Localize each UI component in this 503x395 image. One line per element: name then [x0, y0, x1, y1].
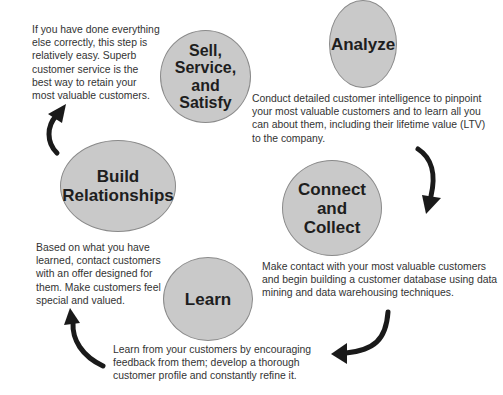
desc-learn: Learn from your customers by encouraging… [113, 343, 318, 383]
arrow-learn-to-build [64, 308, 103, 366]
node-sell-title: Sell, Service, and Satisfy [175, 42, 236, 112]
desc-sell-service-satisfy: If you have done everything else correct… [32, 23, 160, 102]
node-analyze: Analyze [329, 0, 397, 88]
node-build-title: Build Relationships [62, 167, 173, 205]
arrow-analyze-to-connect [418, 149, 441, 214]
desc-build-relationships: Based on what you have learned, contact … [36, 241, 164, 307]
desc-connect-collect: Make contact with your most valuable cus… [262, 260, 502, 300]
arrow-connect-to-learn [331, 312, 388, 364]
node-learn: Learn [163, 257, 253, 341]
node-connect-collect: Connect and Collect [282, 160, 382, 256]
node-learn-title: Learn [185, 290, 231, 309]
node-sell-service-satisfy: Sell, Service, and Satisfy [160, 30, 251, 123]
node-analyze-title: Analyze [331, 35, 395, 54]
desc-analyze: Conduct detailed customer intelligence t… [252, 92, 492, 145]
arrow-build-to-sell [48, 104, 66, 153]
node-connect-title: Connect and Collect [298, 180, 366, 237]
node-build-relationships: Build Relationships [60, 140, 176, 232]
